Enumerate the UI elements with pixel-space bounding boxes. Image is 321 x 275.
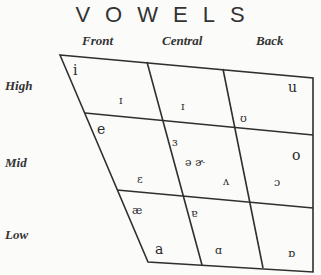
symbol-o: o	[292, 147, 300, 163]
divider-mid-low	[117, 190, 313, 208]
symbol-e: e	[97, 121, 105, 137]
symbol-upsilon: ʊ	[240, 112, 247, 125]
divider-high-mid	[85, 113, 313, 135]
symbol-a: a	[155, 241, 163, 257]
symbol-epsilon: ɛ	[137, 173, 143, 186]
symbol-ae: æ	[132, 204, 142, 217]
symbol-wedge: ʌ	[222, 175, 230, 188]
symbol-reversed-epsilon: ɜ	[172, 136, 178, 149]
symbol-turned-script-a: ɒ	[288, 247, 295, 260]
symbol-schwa-pair: ə ɚ	[185, 156, 205, 169]
symbol-small-i-front: ɪ	[119, 94, 123, 107]
symbol-open-o: ɔ	[274, 176, 280, 189]
symbol-u: u	[288, 79, 297, 95]
divider-central-back	[223, 69, 263, 268]
symbol-i: i	[73, 62, 78, 78]
vowel-trapezoid: i ɪ ɪ ʊ u e ɜ ə ɚ o ɛ ʌ ɔ æ ɐ a ɑ ɒ	[0, 0, 321, 275]
symbol-small-i-central: ɪ	[181, 100, 185, 113]
symbol-turned-a: ɐ	[191, 207, 198, 220]
symbol-script-a: ɑ	[215, 244, 222, 257]
